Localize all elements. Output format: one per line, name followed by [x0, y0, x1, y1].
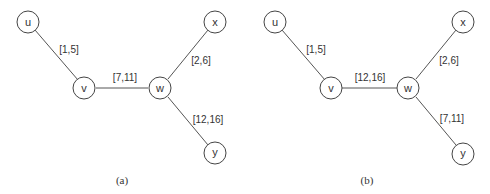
edge-label-uv: [1,5] — [306, 44, 326, 55]
diagram-canvas: [1,5] [7,11] [2,6] [12,16] u v w x y (a)… — [0, 0, 490, 194]
node-label-y: y — [212, 146, 218, 158]
node-label-u: u — [25, 16, 31, 28]
edge-label-vw: [12,16] — [355, 72, 386, 83]
edge-label-vw: [7,11] — [113, 72, 137, 83]
node-label-v: v — [81, 82, 87, 94]
node-label-v: v — [328, 82, 334, 94]
edge-uv — [35, 30, 78, 80]
node-label-y: y — [460, 147, 466, 159]
caption-a: (a) — [116, 174, 129, 187]
edge-uv — [282, 30, 325, 80]
caption-b: (b) — [361, 174, 374, 187]
node-label-w: w — [403, 82, 412, 94]
edge-label-wx: [2,6] — [191, 55, 211, 66]
node-label-x: x — [460, 16, 466, 28]
panel-b: [1,5] [12,16] [2,6] [7,11] u v w x y (b) — [264, 11, 474, 187]
node-label-w: w — [155, 82, 164, 94]
node-label-x: x — [212, 16, 218, 28]
panel-a: [1,5] [7,11] [2,6] [12,16] u v w x y (a) — [17, 11, 226, 187]
edge-label-uv: [1,5] — [59, 44, 79, 55]
edge-label-wy: [7,11] — [440, 113, 464, 124]
edge-label-wy: [12,16] — [193, 114, 224, 125]
edge-label-wx: [2,6] — [439, 55, 459, 66]
node-label-u: u — [272, 16, 278, 28]
